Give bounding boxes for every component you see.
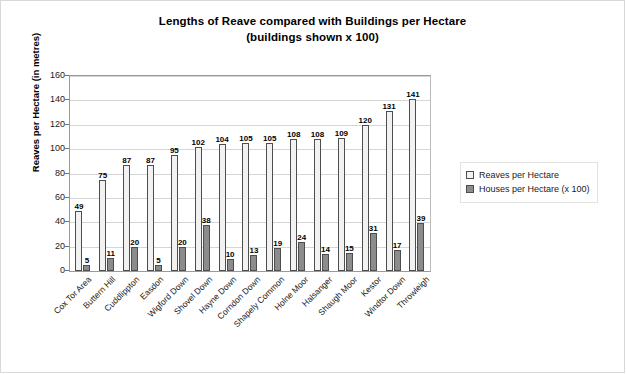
y-tick-label: 80 xyxy=(25,169,65,178)
bar-value-label: 95 xyxy=(170,146,179,155)
bar-houses[interactable]: 20 xyxy=(131,247,138,271)
y-tick-label: 140 xyxy=(25,95,65,104)
bar-value-label: 31 xyxy=(369,224,378,233)
bar-reaves[interactable]: 108 xyxy=(290,139,297,271)
bar-value-label: 39 xyxy=(417,214,426,223)
bar-houses[interactable]: 17 xyxy=(394,250,401,271)
y-axis-ticks: 160140120100806040200 xyxy=(21,75,65,272)
bar-value-label: 38 xyxy=(202,216,211,225)
bar-group: 14139 xyxy=(405,76,429,271)
bar-group: 495 xyxy=(71,76,95,271)
legend-item[interactable]: Houses per Hectare (x 100) xyxy=(466,182,590,196)
y-tick-label: 20 xyxy=(25,242,65,251)
bar-value-label: 108 xyxy=(287,130,300,139)
bar-reaves[interactable]: 104 xyxy=(219,144,226,271)
bar-houses[interactable]: 13 xyxy=(250,255,257,271)
bar-reaves[interactable]: 131 xyxy=(386,111,393,271)
bar-houses[interactable]: 15 xyxy=(346,253,353,271)
bar-reaves[interactable]: 105 xyxy=(266,143,273,271)
bar-group: 12031 xyxy=(357,76,381,271)
bar-value-label: 11 xyxy=(107,249,115,258)
bar-value-label: 19 xyxy=(273,239,282,248)
bar-reaves[interactable]: 109 xyxy=(338,138,345,271)
bar-houses[interactable]: 31 xyxy=(370,233,377,271)
bar-group: 10410 xyxy=(214,76,238,271)
bar-value-label: 87 xyxy=(146,156,155,165)
chart-title-line1: Lengths of Reave compared with Buildings… xyxy=(159,15,466,27)
bar-reaves[interactable]: 49 xyxy=(75,211,82,271)
bar-group: 10915 xyxy=(333,76,357,271)
bar-group: 8720 xyxy=(119,76,143,271)
bar-value-label: 120 xyxy=(359,116,372,125)
bar-value-label: 105 xyxy=(239,134,252,143)
bar-houses[interactable]: 5 xyxy=(83,265,90,271)
bar-reaves[interactable]: 120 xyxy=(362,125,369,271)
bar-value-label: 5 xyxy=(156,256,160,265)
bar-value-label: 141 xyxy=(406,90,419,99)
legend-swatch-houses xyxy=(466,185,474,193)
y-tick-label: 160 xyxy=(25,71,65,80)
bar-value-label: 17 xyxy=(393,241,402,250)
bar-group: 10814 xyxy=(310,76,334,271)
legend-item[interactable]: Reaves per Hectare xyxy=(466,168,590,182)
bar-value-label: 15 xyxy=(345,244,354,253)
bar-group: 10519 xyxy=(262,76,286,271)
bar-group: 7511 xyxy=(95,76,119,271)
bar-group: 10824 xyxy=(286,76,310,271)
bar-houses[interactable]: 10 xyxy=(227,259,234,271)
bar-value-label: 105 xyxy=(263,134,276,143)
y-tick-label: 0 xyxy=(25,266,65,275)
bar-value-label: 20 xyxy=(130,238,139,247)
bar-group: 13117 xyxy=(381,76,405,271)
y-tick-label: 120 xyxy=(25,120,65,129)
bar-value-label: 14 xyxy=(321,245,330,254)
chart-title-line2: (buildings shown x 100) xyxy=(1,29,624,45)
bars-layer: 4957511872087595201023810410105131051910… xyxy=(70,76,430,271)
legend-label: Houses per Hectare (x 100) xyxy=(479,184,590,194)
bar-value-label: 102 xyxy=(192,138,205,147)
chart-title: Lengths of Reave compared with Buildings… xyxy=(1,13,624,45)
y-tick-label: 100 xyxy=(25,144,65,153)
bar-houses[interactable]: 11 xyxy=(107,258,114,271)
bar-value-label: 104 xyxy=(215,135,228,144)
bar-value-label: 109 xyxy=(335,129,348,138)
bar-houses[interactable]: 39 xyxy=(417,223,424,271)
bar-reaves[interactable]: 141 xyxy=(409,99,416,271)
bar-reaves[interactable]: 105 xyxy=(242,143,249,271)
bar-group: 10513 xyxy=(238,76,262,271)
chart-container: Lengths of Reave compared with Buildings… xyxy=(0,0,625,373)
bar-reaves[interactable]: 87 xyxy=(123,165,130,271)
bar-value-label: 10 xyxy=(226,250,235,259)
bar-reaves[interactable]: 87 xyxy=(147,165,154,271)
bar-houses[interactable]: 20 xyxy=(179,247,186,271)
bar-value-label: 13 xyxy=(249,246,258,255)
bar-value-label: 87 xyxy=(122,156,131,165)
bar-houses[interactable]: 24 xyxy=(298,242,305,271)
bar-value-label: 5 xyxy=(85,256,89,265)
bar-group: 9520 xyxy=(166,76,190,271)
legend-swatch-reaves xyxy=(466,171,474,179)
bar-value-label: 49 xyxy=(74,202,83,211)
bar-group: 875 xyxy=(143,76,167,271)
bar-reaves[interactable]: 95 xyxy=(171,155,178,271)
bar-value-label: 131 xyxy=(382,102,395,111)
bar-value-label: 24 xyxy=(297,233,306,242)
bar-houses[interactable]: 38 xyxy=(203,225,210,271)
bar-reaves[interactable]: 75 xyxy=(99,180,106,271)
bar-houses[interactable]: 5 xyxy=(155,265,162,271)
plot-area: 4957511872087595201023810410105131051910… xyxy=(69,75,431,272)
bar-houses[interactable]: 14 xyxy=(322,254,329,271)
x-axis-labels: Cox Tor AreaButtern HillCuddlipptonEasdo… xyxy=(69,273,431,369)
chart-legend: Reaves per HectareHouses per Hectare (x … xyxy=(460,162,598,203)
y-tick-label: 40 xyxy=(25,217,65,226)
bar-group: 10238 xyxy=(190,76,214,271)
bar-value-label: 75 xyxy=(98,171,107,180)
bar-reaves[interactable]: 102 xyxy=(195,147,202,271)
bar-houses[interactable]: 19 xyxy=(274,248,281,271)
bar-value-label: 108 xyxy=(311,130,324,139)
legend-label: Reaves per Hectare xyxy=(479,170,559,180)
bar-reaves[interactable]: 108 xyxy=(314,139,321,271)
y-tick-label: 60 xyxy=(25,193,65,202)
bar-value-label: 20 xyxy=(178,238,187,247)
